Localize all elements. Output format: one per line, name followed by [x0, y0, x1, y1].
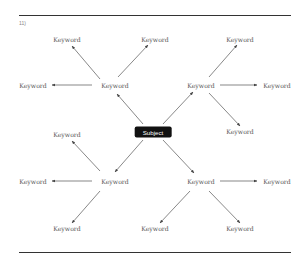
keyword-node-tl-upright: Keyword: [141, 36, 169, 43]
keyword-node-tr-right: Keyword: [263, 82, 291, 89]
arrow-edge: [118, 45, 148, 77]
keyword-node-tl-up: Keyword: [53, 36, 81, 43]
arrow-edge: [72, 141, 100, 171]
keyword-node-hub-bl: Keyword: [101, 178, 129, 185]
arrow-edge: [117, 94, 143, 124]
arrow-edge: [209, 93, 240, 126]
arrow-edge: [72, 46, 100, 79]
arrow-edge: [72, 191, 100, 223]
keyword-node-br-down: Keyword: [226, 225, 254, 232]
subject-node: Subject: [135, 127, 172, 138]
arrow-edge: [209, 45, 237, 77]
keyword-node-br-right: Keyword: [263, 178, 291, 185]
keyword-node-hub-tr: Keyword: [187, 82, 215, 89]
arrow-edge: [163, 92, 193, 124]
arrow-edge: [160, 191, 190, 223]
keyword-node-bl-down: Keyword: [53, 225, 81, 232]
arrow-edge: [209, 191, 240, 223]
keyword-node-br-downleft: Keyword: [141, 225, 169, 232]
keyword-node-bl-up: Keyword: [53, 131, 81, 138]
arrow-edge: [163, 140, 194, 173]
keyword-node-tr-up: Keyword: [226, 36, 254, 43]
keyword-node-hub-br: Keyword: [187, 178, 215, 185]
keyword-node-tr-down: Keyword: [226, 128, 254, 135]
bottom-rule: [19, 252, 291, 253]
keyword-node-tl-left: Keyword: [19, 82, 47, 89]
keyword-node-bl-left: Keyword: [19, 178, 47, 185]
keyword-node-hub-tl: Keyword: [101, 82, 129, 89]
arrow-edge: [115, 140, 143, 172]
